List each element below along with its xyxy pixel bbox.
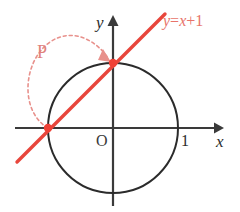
y-axis-label: y	[96, 14, 104, 31]
intersection-point-left	[44, 124, 52, 132]
line-equation-label: y=x+1	[163, 13, 203, 29]
figure-canvas	[0, 0, 240, 212]
line-y-equals-x-plus-1	[17, 14, 165, 162]
intersection-markers	[44, 59, 117, 132]
y-axis-arrowhead	[108, 15, 119, 26]
point-p-label: P	[37, 43, 47, 61]
equation-plus-one: +1	[186, 12, 203, 29]
dashed-arc-arrowhead	[98, 49, 111, 62]
math-figure: y x O 1 y=x+1 P	[0, 0, 240, 212]
y-axis	[108, 15, 119, 206]
x-tick-label-one: 1	[181, 133, 189, 149]
equation-equals-symbol: =	[170, 12, 179, 29]
intersection-point-top	[109, 59, 117, 67]
origin-label: O	[96, 133, 108, 149]
x-axis-label: x	[216, 133, 224, 150]
